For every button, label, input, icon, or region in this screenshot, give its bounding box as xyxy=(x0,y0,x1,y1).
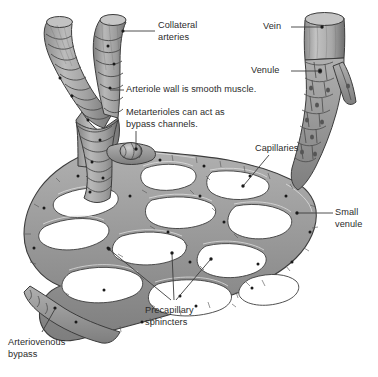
label-venule: Venule xyxy=(251,65,279,77)
label-arteriole-wall: Arteriole wall is smooth muscle. xyxy=(126,84,256,96)
label-capillaries: Capillaries xyxy=(255,143,298,155)
artery-right-rim xyxy=(100,15,126,26)
microcirculation-diagram: Collateral arteries Vein Venule Arteriol… xyxy=(0,0,378,377)
label-vein: Vein xyxy=(263,21,281,33)
artery-left-rim xyxy=(47,17,73,28)
label-arteriovenous-bypass: Arteriovenous bypass xyxy=(8,337,65,360)
venule xyxy=(291,58,344,190)
label-small-venule: Small venule xyxy=(335,207,362,230)
vein-venule-group xyxy=(291,13,356,191)
label-collateral-arteries: Collateral arteries xyxy=(158,20,197,43)
label-metarterioles: Metarterioles can act as bypass channels… xyxy=(126,107,225,130)
label-precapillary-sphincters: Precapillary sphincters xyxy=(145,305,194,328)
vein-rim xyxy=(305,13,344,26)
